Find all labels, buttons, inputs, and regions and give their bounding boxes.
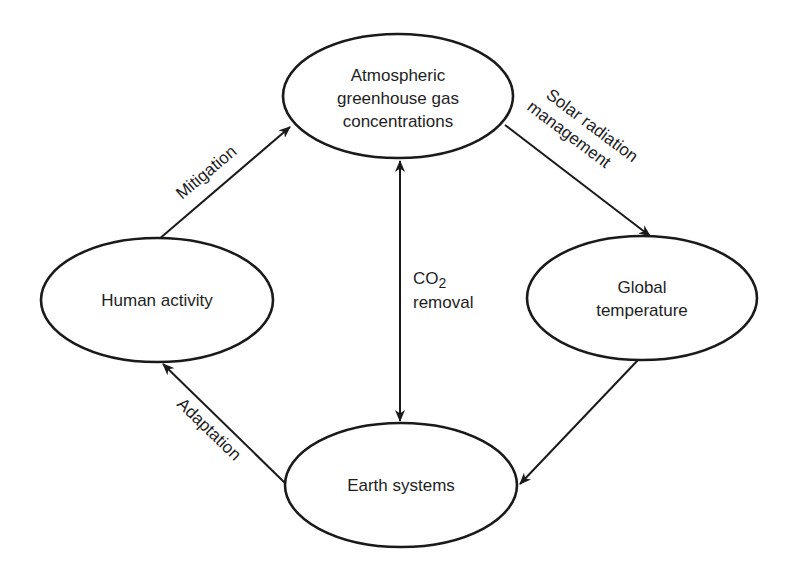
co2-text: CO2 (413, 269, 447, 291)
ellipse-shape (527, 236, 757, 360)
subscript-2: 2 (439, 275, 447, 291)
solar-radiation-management-label: Solar radiation management (524, 80, 642, 183)
adaptation-arrow (163, 364, 285, 483)
temperature-to-earth-systems-arrow (520, 360, 638, 484)
co-text: CO (413, 269, 439, 288)
node-label-line-2: greenhouse gas (337, 89, 459, 108)
mitigation-label: Mitigation (172, 142, 240, 203)
removal-text: removal (413, 293, 473, 312)
climate-intervention-diagram: Atmospheric greenhouse gas concentration… (0, 0, 799, 573)
node-label-line-3: concentrations (343, 112, 454, 131)
node-label: Human activity (101, 291, 213, 310)
node-label-line-2: temperature (596, 301, 688, 320)
node-atmospheric-ghg: Atmospheric greenhouse gas concentration… (283, 34, 513, 158)
node-earth-systems: Earth systems (285, 423, 517, 547)
adaptation-label: Adaptation (173, 394, 245, 464)
node-label-line-1: Global (617, 278, 666, 297)
node-label-line-1: Atmospheric (351, 66, 446, 85)
node-human-activity: Human activity (41, 238, 273, 362)
co2-removal-label: CO2 removal (413, 269, 473, 312)
node-global-temperature: Global temperature (527, 236, 757, 360)
node-label: Earth systems (347, 476, 455, 495)
